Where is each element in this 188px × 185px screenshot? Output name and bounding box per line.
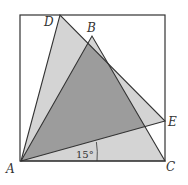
label-c: C: [166, 160, 175, 174]
geometry-figure: 15° A B C D E: [0, 0, 188, 185]
angle-label: 15°: [76, 149, 94, 160]
label-d: D: [43, 15, 54, 29]
label-a: A: [5, 162, 15, 176]
label-b: B: [86, 21, 96, 35]
label-e: E: [167, 115, 177, 129]
